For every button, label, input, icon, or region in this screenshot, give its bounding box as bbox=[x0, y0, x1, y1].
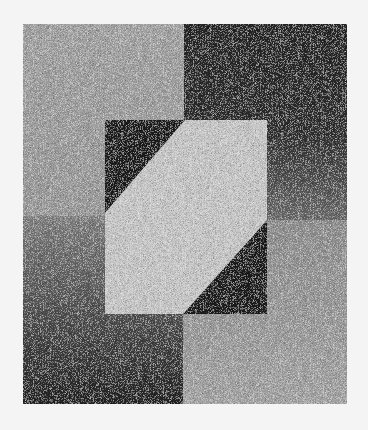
illusion-artwork bbox=[0, 0, 368, 430]
artwork-layers bbox=[23, 24, 347, 404]
